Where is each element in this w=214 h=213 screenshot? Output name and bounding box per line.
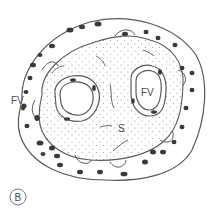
fetal-vessel-left [55,76,99,122]
label-stroma: S [118,123,125,134]
label-fv-left: FV [11,95,24,106]
label-fv-right: FV [141,87,154,98]
histology-diagram: FV FV S B [0,0,214,213]
panel-label: B [15,192,22,203]
